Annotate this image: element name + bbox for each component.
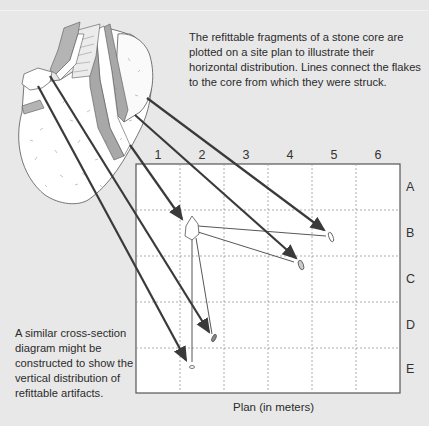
row-label-c: C bbox=[406, 272, 415, 286]
row-label-d: D bbox=[406, 318, 415, 332]
flake-marker bbox=[190, 366, 195, 369]
row-label-e: E bbox=[406, 362, 414, 376]
row-label-b: B bbox=[406, 226, 414, 240]
column-label-3: 3 bbox=[236, 148, 256, 162]
left-caption: A similar cross-section diagram might be… bbox=[15, 326, 145, 401]
column-label-1: 1 bbox=[148, 148, 168, 162]
plan-label: Plan (in meters) bbox=[233, 401, 314, 413]
row-label-a: A bbox=[406, 180, 414, 194]
top-caption: The refittable fragments of a stone core… bbox=[189, 30, 425, 90]
column-label-5: 5 bbox=[324, 148, 344, 162]
column-label-4: 4 bbox=[280, 148, 300, 162]
column-label-2: 2 bbox=[192, 148, 212, 162]
column-label-6: 6 bbox=[368, 148, 388, 162]
